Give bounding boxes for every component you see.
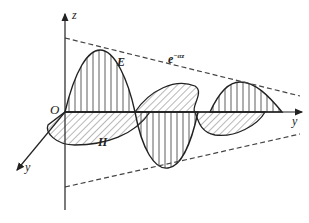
y-axis-right-label: y [292,114,297,129]
envelope-exponent: −αz [173,52,184,60]
z-axis-label: z [72,8,77,23]
em-wave-diagram: z O y y E H e−αz [0,0,309,223]
origin-label: O [50,102,59,118]
envelope-label: e−αz [168,52,184,67]
h-field-label: H [98,135,107,150]
y-axis-oblique-label: y [25,160,30,175]
e-field-label: E [117,55,125,70]
